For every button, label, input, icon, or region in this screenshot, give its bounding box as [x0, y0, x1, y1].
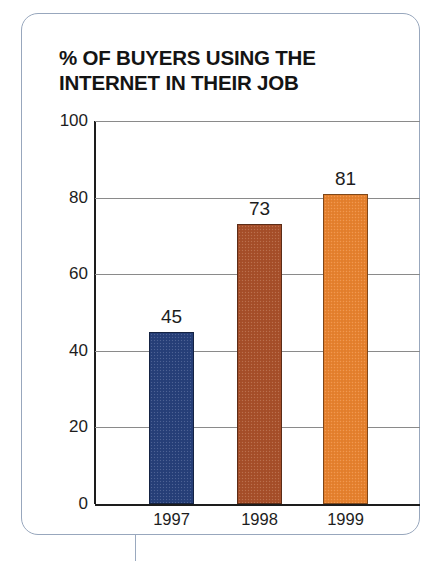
bar-1998: 731998 — [237, 224, 282, 504]
bar-value-label-1998: 73 — [249, 198, 270, 220]
x-tick-label-1997: 1997 — [153, 510, 190, 529]
callout-connector-line — [135, 535, 136, 561]
y-tick-label-80: 80 — [69, 188, 88, 208]
bar-value-label-1999: 81 — [335, 168, 356, 190]
chart-title: % OF BUYERS USING THE INTERNET IN THEIR … — [59, 45, 389, 95]
y-tick-label-100: 100 — [60, 111, 88, 131]
y-tick-label-40: 40 — [69, 341, 88, 361]
bar-value-label-1997: 45 — [161, 306, 182, 328]
x-tick-label-1998: 1998 — [241, 510, 278, 529]
bar-1997: 451997 — [149, 332, 194, 504]
y-axis-line — [94, 121, 96, 504]
y-tick-label-60: 60 — [69, 264, 88, 284]
chart-plot-area: 020406080100 451997731998811999 — [95, 121, 420, 504]
y-tick-label-0: 0 — [79, 494, 88, 514]
bar-1999: 811999 — [323, 194, 368, 504]
chart-card: % OF BUYERS USING THE INTERNET IN THEIR … — [21, 13, 420, 535]
gridline-100 — [95, 121, 420, 122]
gridline-0 — [95, 504, 420, 506]
y-tick-label-20: 20 — [69, 417, 88, 437]
x-tick-label-1999: 1999 — [327, 510, 364, 529]
